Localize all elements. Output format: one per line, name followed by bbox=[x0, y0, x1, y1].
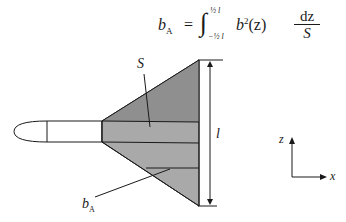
span-label: l bbox=[216, 126, 220, 142]
wing-diagram bbox=[0, 0, 346, 222]
z-axis-arrow-icon bbox=[289, 137, 295, 144]
span-arrow-top-icon bbox=[207, 61, 213, 67]
mean-chord-leader-line bbox=[95, 169, 170, 197]
x-axis-arrow-icon bbox=[320, 174, 327, 180]
area-label: S bbox=[137, 56, 144, 72]
span-arrow-bottom-icon bbox=[207, 199, 213, 205]
x-axis-label: x bbox=[330, 169, 335, 184]
z-axis-label: z bbox=[279, 132, 284, 147]
mean-chord-label: bA bbox=[82, 196, 95, 214]
fuselage bbox=[14, 121, 102, 142]
